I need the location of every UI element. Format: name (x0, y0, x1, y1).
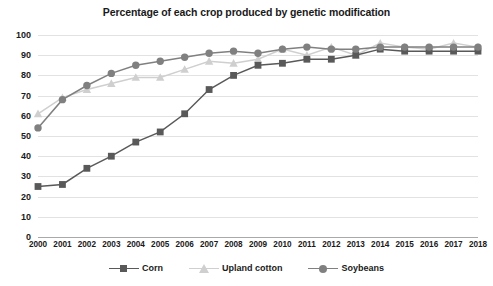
legend-marker-icon (109, 262, 139, 274)
data-point-marker (255, 62, 262, 69)
legend-item-upland-cotton[interactable]: Upland cotton (189, 262, 283, 274)
data-point-marker (254, 49, 261, 56)
data-point-marker (352, 45, 359, 52)
data-point-marker (279, 60, 286, 67)
data-point-marker (279, 45, 286, 52)
data-point-marker (474, 43, 481, 50)
legend-marker-icon (308, 262, 338, 274)
data-point-marker (230, 72, 237, 79)
data-point-marker (34, 110, 42, 118)
chart-legend: CornUpland cottonSoybeans (0, 258, 493, 278)
data-point-marker (59, 96, 66, 103)
legend-label: Soybeans (341, 263, 384, 273)
data-point-marker (132, 62, 139, 69)
x-axis-labels: 2000200120022003200420052006200720082009… (38, 240, 478, 254)
series-soybeans (34, 43, 481, 131)
data-point-marker (132, 139, 139, 146)
legend-marker-icon (189, 262, 219, 274)
data-point-marker (206, 86, 213, 93)
data-point-marker (59, 181, 66, 188)
data-point-marker (450, 43, 457, 50)
data-point-marker (83, 165, 90, 172)
legend-label: Corn (142, 263, 163, 273)
data-point-marker (83, 82, 90, 89)
data-point-marker (205, 49, 212, 56)
legend-item-corn[interactable]: Corn (109, 262, 163, 274)
data-point-marker (35, 183, 42, 190)
data-point-marker (230, 47, 237, 54)
data-point-marker (157, 58, 164, 65)
data-point-marker (377, 43, 384, 50)
data-point-marker (401, 43, 408, 50)
data-point-marker (108, 153, 115, 160)
chart-container: Percentage of each crop produced by gene… (0, 0, 493, 286)
data-point-marker (157, 129, 164, 136)
data-point-marker (303, 56, 310, 63)
legend-item-soybeans[interactable]: Soybeans (308, 262, 384, 274)
data-point-marker (328, 56, 335, 63)
data-point-marker (181, 54, 188, 61)
data-point-marker (303, 43, 310, 50)
x-tick-label: 2018 (458, 240, 493, 249)
legend-label: Upland cotton (222, 263, 283, 273)
series-line (38, 49, 478, 186)
data-point-marker (34, 124, 41, 131)
series-corn (35, 46, 482, 190)
data-point-marker (181, 110, 188, 117)
data-point-marker (328, 45, 335, 52)
data-point-marker (425, 43, 432, 50)
data-point-marker (108, 70, 115, 77)
